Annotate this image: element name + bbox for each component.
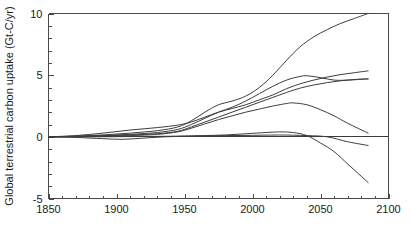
y-tick-label: 5 [36, 69, 42, 81]
line-chart: Global terrestrial carbon uptake (Gt-C/y… [0, 0, 411, 230]
x-tick-label: 2100 [376, 203, 400, 215]
data-curve [49, 132, 369, 183]
x-tick-label: 1950 [172, 203, 196, 215]
x-tick-label: 2000 [240, 203, 264, 215]
y-tick-label: -5 [33, 193, 43, 205]
data-curve [49, 76, 369, 137]
y-axis-title: Global terrestrial carbon uptake (Gt-C/y… [3, 6, 15, 205]
x-axis-ticks [50, 194, 390, 199]
x-tick-label: 2050 [308, 203, 332, 215]
y-tick-label: 10 [30, 8, 42, 20]
y-tick-label: 0 [36, 131, 42, 143]
x-tick-label: 1900 [104, 203, 128, 215]
data-curve [49, 71, 369, 137]
y-axis-title-group: Global terrestrial carbon uptake (Gt-C/y… [3, 6, 15, 205]
y-axis-ticks [49, 15, 54, 200]
chart-figure: Global terrestrial carbon uptake (Gt-C/y… [0, 0, 411, 230]
data-curve [49, 103, 369, 137]
y-axis-tick-labels: -50510 [30, 8, 42, 205]
data-curve [49, 79, 369, 137]
data-curves [49, 14, 369, 183]
x-axis-tick-labels: 185019001950200020502100 [36, 203, 400, 215]
plot-frame [49, 14, 389, 199]
data-curve [49, 14, 369, 137]
